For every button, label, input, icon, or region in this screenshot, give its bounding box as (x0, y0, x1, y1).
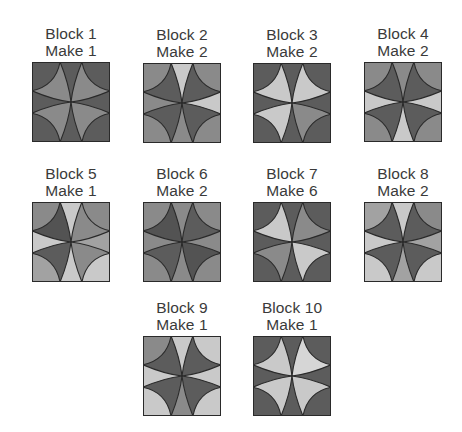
block-6: Block 6 Make 2 (137, 165, 227, 199)
quilt-block-svg (143, 336, 221, 416)
block-title: Block 5 (26, 165, 116, 182)
block-title: Block 10 (247, 299, 337, 316)
block-title: Block 4 (358, 25, 448, 42)
block-3: Block 3 Make 2 (247, 26, 337, 60)
block-7: Block 7 Make 6 (247, 165, 337, 199)
quilt-block-svg (364, 202, 442, 282)
block-1: Block 1 Make 1 (26, 25, 116, 59)
quilt-block-svg (32, 202, 110, 282)
make-count: Make 2 (137, 43, 227, 60)
quilt-block-diagram (253, 202, 331, 282)
make-count: Make 6 (247, 182, 337, 199)
quilt-block-svg (143, 202, 221, 282)
quilt-block-diagram (143, 63, 221, 143)
block-2: Block 2 Make 2 (137, 26, 227, 60)
block-title: Block 9 (137, 299, 227, 316)
block-title: Block 7 (247, 165, 337, 182)
block-9: Block 9 Make 1 (137, 299, 227, 333)
quilt-block-diagram (364, 62, 442, 142)
block-10: Block 10 Make 1 (247, 299, 337, 333)
make-count: Make 1 (26, 182, 116, 199)
block-4: Block 4 Make 2 (358, 25, 448, 59)
make-count: Make 2 (358, 42, 448, 59)
block-title: Block 3 (247, 26, 337, 43)
block-title: Block 1 (26, 25, 116, 42)
make-count: Make 1 (137, 316, 227, 333)
quilt-block-diagram (143, 336, 221, 416)
block-title: Block 6 (137, 165, 227, 182)
quilt-block-svg (32, 62, 110, 142)
make-count: Make 2 (358, 182, 448, 199)
quilt-block-svg (143, 63, 221, 143)
block-5: Block 5 Make 1 (26, 165, 116, 199)
make-count: Make 1 (247, 316, 337, 333)
make-count: Make 2 (247, 43, 337, 60)
make-count: Make 2 (137, 182, 227, 199)
block-title: Block 2 (137, 26, 227, 43)
quilt-block-diagram (32, 202, 110, 282)
quilt-block-diagram (253, 63, 331, 143)
make-count: Make 1 (26, 42, 116, 59)
quilt-block-svg (364, 62, 442, 142)
quilt-block-diagram (253, 336, 331, 416)
quilt-block-svg (253, 202, 331, 282)
quilt-block-svg (253, 336, 331, 416)
quilt-block-diagram (32, 62, 110, 142)
block-title: Block 8 (358, 165, 448, 182)
block-8: Block 8 Make 2 (358, 165, 448, 199)
quilt-block-diagram (143, 202, 221, 282)
quilt-block-svg (253, 63, 331, 143)
quilt-block-diagram (364, 202, 442, 282)
